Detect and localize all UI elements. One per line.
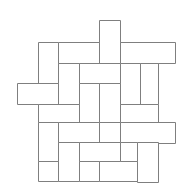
brick-vertical bbox=[100, 84, 121, 123]
brick-vertical bbox=[39, 123, 59, 162]
brick-horizontal bbox=[59, 123, 100, 143]
basketweave-pattern-canvas bbox=[0, 0, 188, 195]
brick-vertical bbox=[138, 143, 159, 183]
brick-horizontal bbox=[80, 162, 100, 182]
brick-vertical bbox=[121, 143, 138, 162]
brick-vertical bbox=[141, 64, 159, 105]
brick-horizontal bbox=[59, 43, 100, 64]
brick-vertical bbox=[39, 43, 59, 85]
brick-vertical bbox=[59, 64, 80, 105]
brick-horizontal bbox=[121, 123, 176, 144]
brick-horizontal bbox=[80, 143, 121, 162]
brick-horizontal bbox=[39, 105, 80, 123]
brick-vertical bbox=[59, 143, 80, 182]
brick-horizontal bbox=[80, 64, 121, 84]
brick-group bbox=[18, 21, 176, 183]
brick-horizontal bbox=[100, 162, 138, 182]
tiling-svg bbox=[0, 0, 188, 195]
brick-horizontal bbox=[39, 162, 59, 182]
brick-horizontal bbox=[121, 105, 159, 123]
brick-horizontal bbox=[18, 84, 59, 105]
brick-vertical bbox=[80, 84, 100, 123]
brick-horizontal bbox=[121, 43, 176, 64]
brick-vertical bbox=[100, 21, 121, 64]
brick-vertical bbox=[121, 64, 141, 105]
